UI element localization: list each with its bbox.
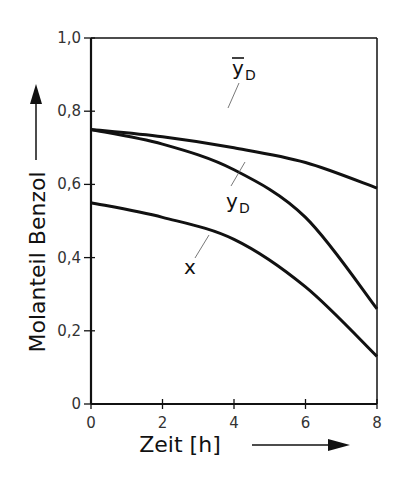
curve-x xyxy=(91,203,377,357)
x-axis-arrow-icon xyxy=(252,439,350,451)
chart: 0246800,20,40,60,81,0 yDyDx Zeit [h] Mol… xyxy=(0,0,396,482)
y-tick-label: 0,8 xyxy=(57,102,81,120)
curves xyxy=(91,130,377,357)
y-tick-label: 0,6 xyxy=(57,175,81,193)
y-tick-label: 0,2 xyxy=(57,322,81,340)
x-axis-label: Zeit [h] xyxy=(139,432,220,457)
x-tick-label: 4 xyxy=(229,414,239,432)
y-tick-label: 1,0 xyxy=(57,29,81,47)
y-tick-label: 0,4 xyxy=(57,249,81,267)
x-tick-label: 8 xyxy=(372,414,382,432)
curve-label-subscript: D xyxy=(245,67,256,83)
x-tick-label: 0 xyxy=(86,414,96,432)
curve-label: x xyxy=(184,255,196,279)
y-axis-arrow-icon xyxy=(30,84,42,160)
curve-label: y xyxy=(232,56,244,80)
curve-label-subscript: D xyxy=(239,200,250,216)
x-tick-label: 2 xyxy=(158,414,168,432)
y-axis-label: Molanteil Benzol xyxy=(25,171,50,352)
axes: 0246800,20,40,60,81,0 xyxy=(57,29,382,432)
curve-y-d xyxy=(91,130,377,309)
x-tick-label: 6 xyxy=(301,414,311,432)
y-tick-label: 0 xyxy=(71,395,81,413)
curve-label: y xyxy=(226,189,238,213)
